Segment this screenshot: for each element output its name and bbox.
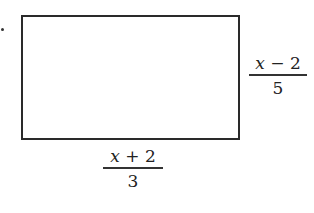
right-label-numerator: x − 2 (252, 54, 303, 74)
bottom-side-length-label: x + 2 3 (103, 147, 163, 190)
right-label-denominator: 5 (273, 76, 284, 97)
variable-x: x (110, 146, 120, 166)
rectangle (21, 15, 240, 140)
numerator-rest: − 2 (265, 53, 301, 73)
bottom-label-numerator: x + 2 (107, 147, 158, 167)
bottom-label-denominator: 3 (128, 169, 139, 190)
bullet-marker (1, 28, 4, 31)
variable-x: x (255, 53, 265, 73)
numerator-rest: + 2 (120, 146, 156, 166)
right-side-length-label: x − 2 5 (249, 54, 307, 97)
